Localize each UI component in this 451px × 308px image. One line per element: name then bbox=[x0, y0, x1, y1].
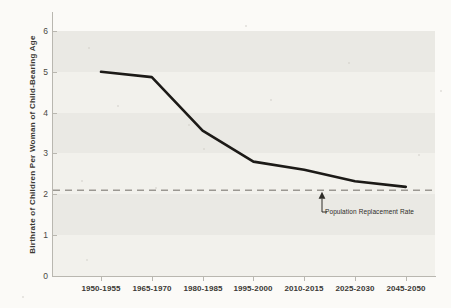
scan-speck bbox=[117, 105, 119, 107]
scan-speck bbox=[270, 99, 272, 101]
scan-speck bbox=[245, 25, 247, 27]
plot-area bbox=[0, 0, 451, 308]
scan-speck bbox=[86, 259, 88, 261]
scan-speck bbox=[348, 62, 350, 64]
replacement-rate-annotation-label: Population Replacement Rate bbox=[325, 208, 414, 215]
scan-speck bbox=[88, 47, 90, 49]
birthrate-series-line bbox=[101, 72, 406, 187]
scan-speck bbox=[81, 180, 83, 182]
scan-speck bbox=[418, 154, 420, 156]
scan-speck bbox=[440, 90, 442, 92]
scan-speck bbox=[188, 124, 190, 126]
scan-speck bbox=[203, 148, 205, 150]
scan-speck bbox=[22, 296, 24, 298]
scan-speck bbox=[155, 187, 157, 189]
chart-container: 6 5 4 3 2 1 0 Birthrate of Children Per … bbox=[0, 0, 451, 308]
